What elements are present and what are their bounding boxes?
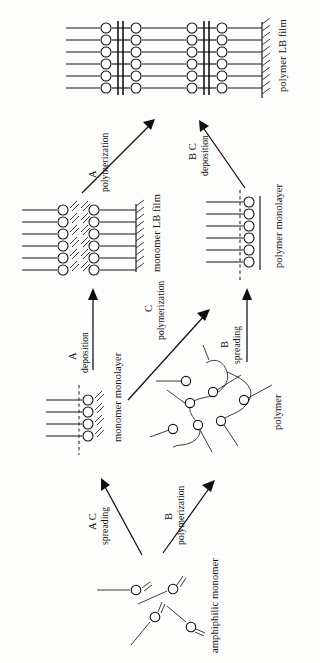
- arrow-b-spreading-process: spreading: [231, 326, 242, 364]
- node-amphiphilic-monomer: amphiphilic monomer: [97, 558, 220, 653]
- polymer-backbone-coil: [173, 360, 228, 447]
- monomer-monolayer-double-bonds: [95, 391, 104, 437]
- monomer-monolayer-head-groups: [83, 395, 93, 441]
- arrow-bc-deposition: B C deposition: [187, 120, 245, 188]
- node-polymer-lb-film: polymer LB film: [66, 18, 288, 98]
- arrow-ac-spreading: A C spreading: [87, 478, 142, 555]
- arrow-c-polymerization-process: polymerization: [155, 280, 166, 340]
- polymer-head-group: [181, 376, 190, 385]
- polymer-head-group: [239, 395, 248, 404]
- label-monomer-monolayer: monomer monolayer: [112, 352, 123, 442]
- polymer-head-group: [193, 420, 202, 429]
- arrow-bc-deposition-route: B C: [187, 143, 198, 160]
- label-polymer-monolayer: polymer monolayer: [273, 183, 284, 268]
- polymer-lb-row-group: [66, 28, 262, 88]
- arrow-b-spreading: B spreading: [219, 288, 252, 364]
- arrow-c-polymerization-route: C: [143, 305, 154, 312]
- label-polymer: polymer: [272, 394, 283, 430]
- figure-root: polymer LB film A polymerization B C dep…: [0, 0, 320, 663]
- substrate-hatch-polymer-lb: [262, 18, 270, 98]
- arrow-a-polymerization: A polymerization: [82, 119, 155, 193]
- monomer-lb-double-bonds: [70, 201, 90, 271]
- arrow-c-polymerization: C polymerization: [128, 280, 210, 400]
- polymer-head-group: [216, 416, 225, 425]
- label-monomer-lb-film: monomer LB film: [151, 194, 162, 272]
- substrate-hatch-monomer-lb: [136, 200, 144, 272]
- arrow-b-spreading-route: B: [219, 341, 230, 348]
- arrow-a-deposition-process: deposition: [79, 332, 90, 373]
- arrow-b-polymerization-route: B: [163, 513, 174, 520]
- monomer-molecule: [131, 602, 165, 645]
- polymer-head-group: [185, 398, 194, 407]
- process-diagram: polymer LB film A polymerization B C dep…: [0, 0, 320, 663]
- node-polymer-monolayer: polymer monolayer: [206, 183, 284, 282]
- monomer-molecule: [167, 606, 205, 636]
- monomer-molecule: [97, 582, 152, 595]
- label-amphiphilic-monomer: amphiphilic monomer: [209, 558, 220, 653]
- arrow-bc-deposition-process: deposition: [199, 135, 210, 176]
- polymer-monolayer-rows: [206, 202, 243, 262]
- arrow-a-polymerization-process: polymerization: [99, 132, 110, 192]
- arrow-a-deposition: A deposition: [67, 288, 98, 373]
- node-polymer: polymer: [150, 345, 283, 452]
- polymer-monolayer-head-groups: [244, 197, 254, 267]
- polymer-head-group: [208, 387, 217, 396]
- label-polymer-lb-film: polymer LB film: [277, 19, 288, 92]
- arrow-ac-spreading-route: A C: [87, 513, 98, 530]
- polymer-head-group: [168, 424, 177, 433]
- polymer-lb-head-groups: [101, 23, 227, 93]
- arrow-b-polymerization: B polymerization: [163, 480, 215, 553]
- node-monomer-lb-film: monomer LB film: [22, 194, 162, 275]
- arrow-b-polymerization-process: polymerization: [175, 485, 186, 545]
- arrow-ac-spreading-process: spreading: [99, 507, 110, 545]
- arrow-a-polymerization-route: A: [87, 170, 98, 178]
- monomer-monolayer-rows: [46, 400, 82, 436]
- arrow-a-deposition-route: A: [67, 352, 78, 360]
